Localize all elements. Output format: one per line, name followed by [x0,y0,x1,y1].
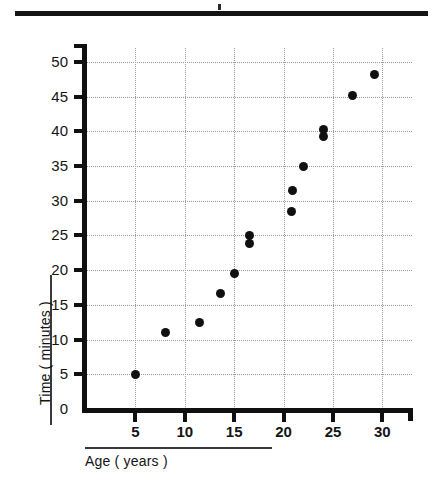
gridline-y-40 [86,131,412,132]
y-tick-5 [74,372,83,376]
data-point [131,370,140,379]
scatter-chart: 05101520253035404550 51015202530 Time ( … [0,0,440,484]
x-tick-label-30: 30 [362,424,402,440]
data-point [245,239,254,248]
plot-area [86,48,412,409]
x-tick-label-15: 15 [214,424,254,440]
y-tick-label-35: 35 [42,158,68,173]
gridline-y-35 [86,166,412,167]
data-point [288,186,297,195]
x-tick-label-10: 10 [165,424,205,440]
y-tick-35 [74,164,83,168]
data-point [216,289,225,298]
gridline-x-10 [185,48,186,409]
x-axis-title: Age ( years ) [85,453,168,469]
gridline-x-25 [333,48,334,409]
gridline-y-15 [86,305,412,306]
data-point [370,70,379,79]
data-point [230,269,239,278]
x-tick-label-20: 20 [264,424,304,440]
gridline-y-50 [86,62,412,63]
data-point [161,328,170,337]
y-tick-label-40: 40 [42,123,68,138]
y-tick-30 [74,199,83,203]
data-point [319,125,328,134]
data-point [195,318,204,327]
x-tick-5 [133,412,137,422]
y-tick-label-30: 30 [42,193,68,208]
x-tick-label-5: 5 [115,424,155,440]
y-tick-50 [74,60,83,64]
gridline-y-20 [86,270,412,271]
x-tick-15 [232,412,236,422]
y-tick-label-25: 25 [42,227,68,242]
data-point [287,207,296,216]
gridline-x-30 [382,48,383,409]
y-axis-line [82,44,87,413]
x-axis-title-rule [85,447,272,449]
y-tick-15 [74,303,83,307]
y-axis-title: Time ( minutes ) [37,273,53,433]
x-tick-20 [282,412,286,422]
x-tick-label-25: 25 [313,424,353,440]
y-tick-20 [74,268,83,272]
y-tick-45 [74,95,83,99]
x-axis-right-cap [408,408,413,421]
y-axis-top-cap [74,44,87,48]
y-tick-25 [74,233,83,237]
y-tick-10 [74,338,83,342]
x-tick-30 [380,412,384,422]
y-tick-40 [74,129,83,133]
gridline-x-15 [234,48,235,409]
x-tick-25 [331,412,335,422]
data-point [348,91,357,100]
data-point [299,162,308,171]
y-tick-label-45: 45 [42,89,68,104]
x-tick-10 [183,412,187,422]
gridline-y-30 [86,201,412,202]
gridline-y-45 [86,97,412,98]
y-tick-label-50: 50 [42,54,68,69]
x-axis-line [82,408,413,413]
gridline-y-10 [86,340,412,341]
gridline-x-20 [284,48,285,409]
gridline-x-5 [135,48,136,409]
